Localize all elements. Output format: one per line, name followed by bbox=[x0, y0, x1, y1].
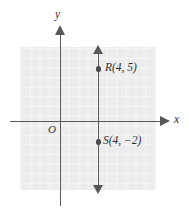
vertical-line-arrow-up-icon bbox=[93, 45, 103, 54]
y-axis-line bbox=[60, 34, 61, 206]
coordinate-plane-figure: R(4, 5) S(4, −2) x y O bbox=[0, 0, 189, 214]
y-axis-label: y bbox=[55, 9, 60, 21]
x-axis-label: x bbox=[174, 114, 179, 126]
point-marker-s bbox=[96, 139, 101, 144]
origin-label: O bbox=[48, 124, 56, 135]
x-axis-line bbox=[10, 121, 162, 122]
y-axis-arrow-icon bbox=[55, 25, 65, 35]
point-label-s: S(4, −2) bbox=[103, 135, 141, 147]
point-marker-r bbox=[96, 66, 101, 71]
vertical-line-x-equals-4 bbox=[98, 54, 99, 186]
x-axis-arrow-icon bbox=[160, 116, 170, 126]
point-label-r: R(4, 5) bbox=[105, 62, 137, 74]
vertical-line-arrow-down-icon bbox=[93, 185, 103, 194]
